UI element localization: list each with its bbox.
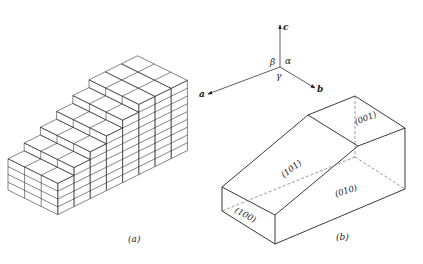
face-001: (001) (353, 109, 378, 127)
axis-label-a: a (199, 89, 205, 99)
angle-gamma: γ (276, 71, 282, 81)
face-010: (010) (334, 182, 359, 199)
b-axis (280, 67, 315, 88)
angle-beta: β (269, 57, 275, 67)
caption-b: (b) (336, 232, 349, 242)
stepped-cell-stack (8, 56, 187, 215)
a-axis (208, 67, 280, 94)
face-101: (101) (279, 158, 303, 180)
crystal-figure: (a) c a b β α γ (001) (101) (010) (100) … (0, 0, 423, 264)
axis-label-b: b (317, 84, 323, 94)
caption-a: (a) (128, 234, 141, 244)
axes-diagram (208, 25, 315, 94)
axis-label-c: c (283, 22, 289, 32)
face-100: (100) (233, 205, 258, 225)
angle-alpha: α (285, 56, 291, 66)
